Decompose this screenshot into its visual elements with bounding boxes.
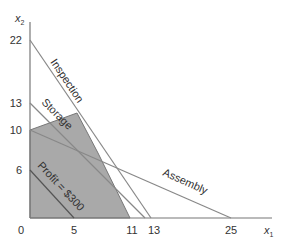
x-tick-13: 13 <box>148 224 160 236</box>
y-tick-6: 6 <box>16 164 22 176</box>
y-axis-title-sub: 2 <box>21 19 25 26</box>
y-tick-13: 13 <box>10 97 22 109</box>
inspection-label: Inspection <box>48 56 86 104</box>
lp-chart: Inspection Storage Assembly Profit = $30… <box>0 0 288 245</box>
y-tick-22: 22 <box>10 34 22 46</box>
x-tick-25: 25 <box>225 224 237 236</box>
x-axis-title: x1 <box>263 224 274 238</box>
assembly-label: Assembly <box>161 166 210 197</box>
x-tick-0: 0 <box>18 224 24 236</box>
y-axis-title: x2 <box>14 12 25 26</box>
x-tick-5: 5 <box>71 224 77 236</box>
chart-svg: Inspection Storage Assembly Profit = $30… <box>0 0 288 245</box>
x-tick-11: 11 <box>126 224 137 236</box>
y-tick-10: 10 <box>10 124 22 136</box>
x-axis-title-sub: 1 <box>270 231 274 238</box>
